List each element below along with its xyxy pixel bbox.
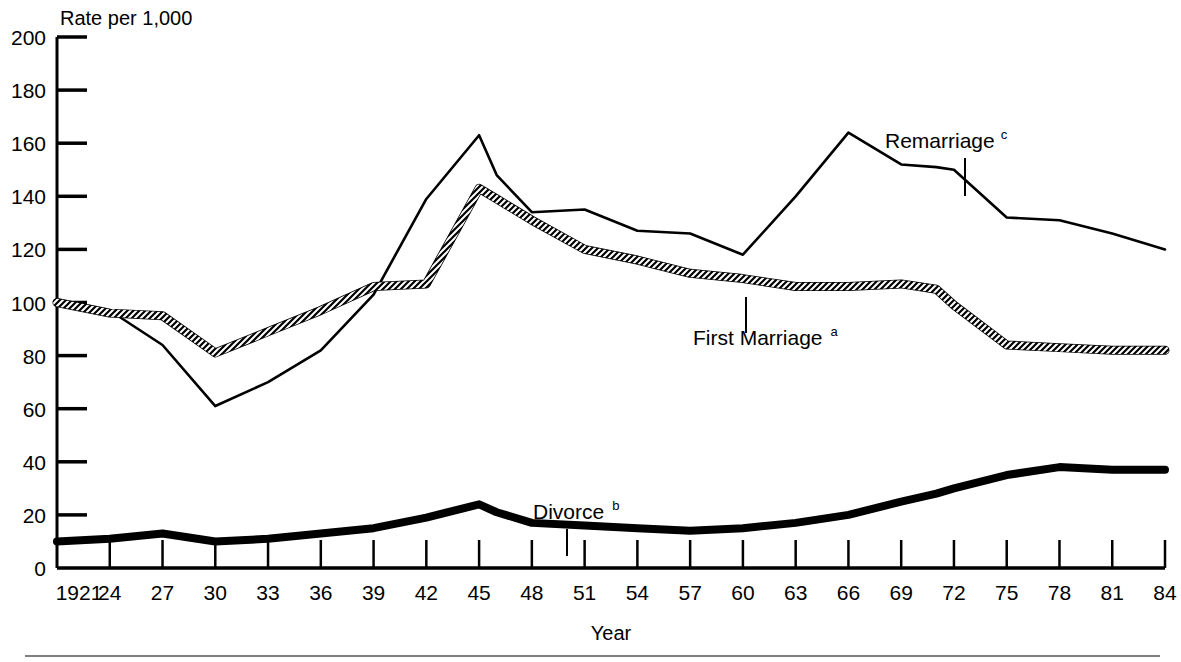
x-tick-label: 66 — [837, 581, 860, 604]
x-tick-label: 84 — [1153, 581, 1177, 604]
y-tick-label: 0 — [34, 557, 46, 580]
y-tick-label: 120 — [11, 238, 46, 261]
x-tick-label: 72 — [942, 581, 965, 604]
x-tick-label: 78 — [1048, 581, 1071, 604]
y-tick-label: 20 — [23, 504, 46, 527]
x-axis-title: Year — [591, 622, 632, 644]
y-tick-label: 140 — [11, 185, 46, 208]
y-tick-label: 60 — [23, 398, 46, 421]
series-label-first-marriage: First Marriage — [693, 326, 823, 349]
y-tick-label: 160 — [11, 132, 46, 155]
x-tick-label: 69 — [890, 581, 913, 604]
series-line-remarriage — [57, 133, 1165, 406]
line-chart: Rate per 1,000 0204060801001201401601802… — [0, 0, 1181, 662]
footnote-mark-divorce: b — [612, 498, 619, 513]
x-tick-label: 81 — [1101, 581, 1124, 604]
series-label-remarriage: Remarriage — [885, 129, 995, 152]
x-tick-label: 45 — [467, 581, 490, 604]
chart-figure: Rate per 1,000 0204060801001201401601802… — [0, 0, 1181, 662]
y-tick-label: 200 — [11, 26, 46, 49]
x-tick-label: 60 — [731, 581, 754, 604]
y-tick-label: 80 — [23, 345, 46, 368]
x-axis-ticks: 1921242730333639424548515457606366697275… — [56, 540, 1177, 604]
x-tick-label: 42 — [415, 581, 438, 604]
x-tick-label: 51 — [573, 581, 596, 604]
x-tick-label: 48 — [520, 581, 543, 604]
footnote-mark-remarriage: c — [1001, 127, 1008, 142]
x-tick-label: 54 — [626, 581, 650, 604]
y-tick-label: 100 — [11, 292, 46, 315]
x-tick-label: 75 — [995, 581, 1018, 604]
footnote-mark-first-marriage: a — [831, 324, 839, 339]
x-tick-label: 36 — [309, 581, 332, 604]
y-tick-label: 40 — [23, 451, 46, 474]
x-tick-label: 63 — [784, 581, 807, 604]
series-line-first-marriage-outline — [57, 188, 1165, 353]
x-tick-label: 1921 — [56, 581, 103, 604]
x-tick-label: 24 — [98, 581, 122, 604]
x-tick-label: 57 — [678, 581, 701, 604]
x-tick-label: 27 — [151, 581, 174, 604]
y-axis-title: Rate per 1,000 — [60, 7, 192, 29]
x-tick-label: 33 — [256, 581, 279, 604]
series-line-divorce — [57, 467, 1165, 541]
series-label-divorce: Divorce — [533, 500, 604, 523]
x-tick-label: 39 — [362, 581, 385, 604]
series-group — [57, 133, 1165, 542]
x-tick-label: 30 — [204, 581, 227, 604]
y-tick-label: 180 — [11, 79, 46, 102]
series-line-first-marriage — [57, 188, 1165, 353]
